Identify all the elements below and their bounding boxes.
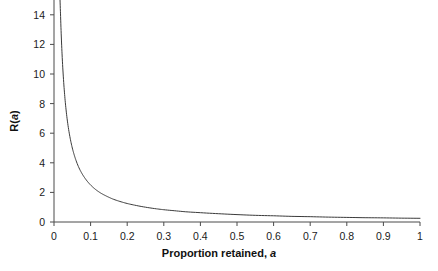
y-axis-title-variable: a (8, 114, 20, 120)
y-axis-title-suffix: ) (8, 110, 20, 114)
axis-lines (54, 0, 420, 222)
x-tick-label: 0.2 (120, 231, 135, 242)
data-curve-series-0 (60, 0, 420, 218)
y-tick-label: 0 (0, 217, 45, 228)
x-tick-label: 0.1 (83, 231, 98, 242)
x-tick-label: 0.7 (303, 231, 318, 242)
x-tick-label: 1 (417, 231, 423, 242)
y-tick-label: 14 (0, 10, 45, 21)
y-tick-label: 4 (0, 158, 45, 169)
x-tick-label: 0.9 (376, 231, 391, 242)
x-tick-label: 0.5 (230, 231, 245, 242)
x-axis-title: Proportion retained, a (162, 248, 276, 259)
y-axis-title: R(a) (9, 110, 20, 131)
y-axis-title-prefix: R( (8, 120, 20, 132)
x-tick-label: 0.4 (193, 231, 208, 242)
y-tick-label: 2 (0, 187, 45, 198)
x-axis-title-text: Proportion retained, (162, 247, 270, 259)
x-tick-label: 0 (51, 231, 57, 242)
x-tick-label: 0.6 (266, 231, 281, 242)
plot-canvas (0, 0, 438, 271)
x-tick-label: 0.3 (156, 231, 171, 242)
y-tick-label: 10 (0, 69, 45, 80)
x-axis-title-variable: a (270, 247, 276, 259)
x-tick-label: 0.8 (339, 231, 354, 242)
y-tick-label: 8 (0, 98, 45, 109)
y-tick-label: 12 (0, 39, 45, 50)
chart-figure: 02468101214 00.10.20.30.40.50.60.70.80.9… (0, 0, 438, 271)
x-tick-marks (54, 222, 420, 226)
y-tick-marks (50, 15, 54, 222)
